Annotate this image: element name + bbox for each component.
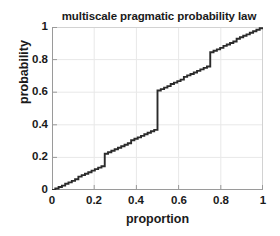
y-tick-label-0.4: 0.4 [18, 119, 48, 130]
data-series-staircase [52, 28, 263, 190]
x-tick-label-0.2: 0.2 [74, 195, 114, 206]
x-tick-label-0: 0 [32, 195, 72, 206]
x-tick-label-0.4: 0.4 [116, 195, 156, 206]
x-tick-label-0.8: 0.8 [201, 195, 241, 206]
plot-area [52, 27, 263, 190]
y-tick-label-0.2: 0.2 [18, 151, 48, 162]
chart-figure: multiscale pragmatic probability law pro… [0, 0, 280, 236]
y-tick-label-1: 1 [18, 21, 48, 32]
plot-svg [52, 27, 263, 190]
chart-title: multiscale pragmatic probability law [52, 10, 266, 23]
x-tick-label-1: 1 [243, 195, 280, 206]
y-tick-label-0.8: 0.8 [18, 54, 48, 65]
x-axis-tick-labels: 0 0.2 0.4 0.6 0.8 1 [52, 195, 263, 209]
x-tick-label-0.6: 0.6 [159, 195, 199, 206]
y-tick-label-0.6: 0.6 [18, 86, 48, 97]
y-tick-label-0: 0 [18, 184, 48, 195]
x-axis-label: proportion [52, 212, 263, 226]
